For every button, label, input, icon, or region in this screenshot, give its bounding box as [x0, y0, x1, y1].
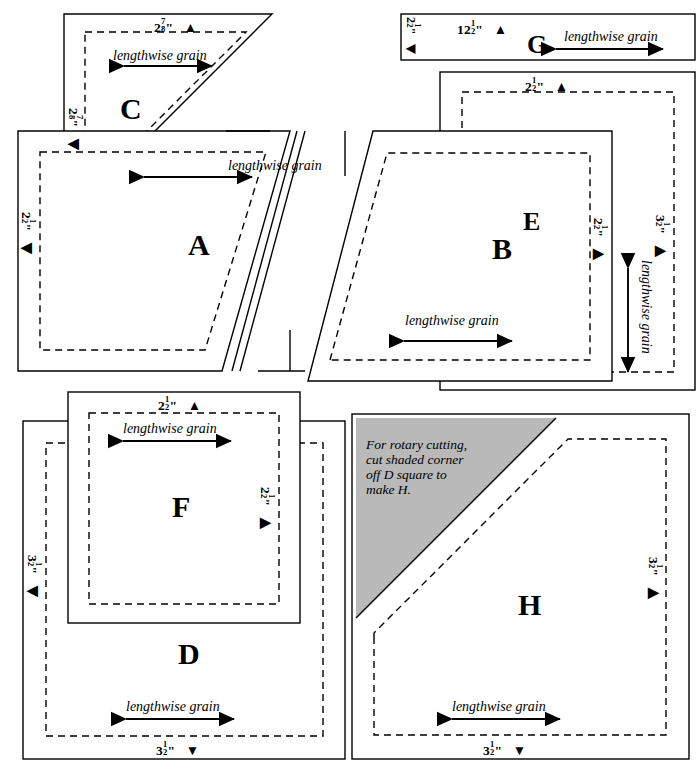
marker-left-icon: ◀	[21, 239, 32, 256]
dim-E-top: 212" ▲	[525, 77, 568, 95]
note-line-3: off D square to	[366, 467, 526, 482]
dim-F-top: 212" ▲	[158, 396, 201, 414]
piece-label-H: H	[518, 588, 541, 622]
dim-B-right: 212" ▶	[590, 218, 608, 259]
piece-label-A: A	[188, 228, 210, 262]
piece-label-D: D	[178, 637, 200, 671]
marker-down-icon: ▼	[513, 743, 527, 758]
dim-C-top: 278" ▲	[154, 18, 197, 36]
piece-label-E: E	[523, 207, 540, 237]
marker-left-icon: ◀	[68, 135, 79, 152]
marker-down-icon: ▼	[186, 743, 200, 758]
diagram-vector-layer	[0, 0, 697, 771]
piece-label-G: G	[527, 30, 547, 60]
dim-A-left: 212" ◀	[18, 212, 36, 253]
grain-caption-A: lengthwise grain	[228, 158, 322, 174]
marker-up-icon: ▲	[188, 398, 202, 413]
grain-caption-F: lengthwise grain	[123, 421, 217, 437]
marker-left-icon: ◀	[406, 41, 415, 56]
dim-H-bottom: 312" ▼	[483, 741, 526, 759]
marker-up-icon: ▲	[184, 20, 198, 35]
marker-up-icon: ▲	[555, 79, 569, 94]
grain-caption-B: lengthwise grain	[405, 313, 499, 329]
note-line-1: For rotary cutting,	[366, 437, 526, 452]
note-line-4: make H.	[366, 482, 526, 497]
piece-label-B: B	[492, 232, 512, 266]
piece-label-C: C	[120, 92, 142, 126]
dim-D-bottom: 312" ▼	[156, 741, 199, 759]
marker-right-icon: ▶	[593, 245, 604, 262]
grain-caption-C: lengthwise grain	[113, 48, 207, 64]
grain-caption-G: lengthwise grain	[564, 29, 658, 45]
piece-B-outline	[308, 131, 612, 381]
dim-H-right: 312" ▶	[645, 557, 663, 598]
marker-right-icon: ▶	[260, 514, 271, 531]
grain-caption-E: lengthwise grain	[638, 260, 654, 354]
dim-C-left: 278" ◀	[65, 108, 83, 149]
dim-G-top: 1212" ▲	[457, 20, 507, 38]
marker-up-icon: ▲	[494, 22, 508, 37]
marker-right-icon: ▶	[655, 242, 666, 259]
rotary-cutting-note: For rotary cutting, cut shaded corner of…	[366, 437, 526, 497]
grain-caption-D: lengthwise grain	[126, 699, 220, 715]
marker-left-icon: ◀	[27, 582, 38, 599]
marker-right-icon: ▶	[648, 584, 659, 601]
piece-label-F: F	[172, 490, 190, 524]
grain-caption-H: lengthwise grain	[452, 699, 546, 715]
note-line-2: cut shaded corner	[366, 452, 526, 467]
dim-F-right: 212" ▶	[257, 487, 275, 528]
dim-G-left: 212" ◀	[403, 17, 421, 53]
dim-E-right: 312" ▶	[652, 215, 670, 256]
template-diagram: C A B E G F D H lengthwise grain lengthw…	[0, 0, 697, 771]
dim-D-left: 312" ◀	[24, 555, 42, 596]
